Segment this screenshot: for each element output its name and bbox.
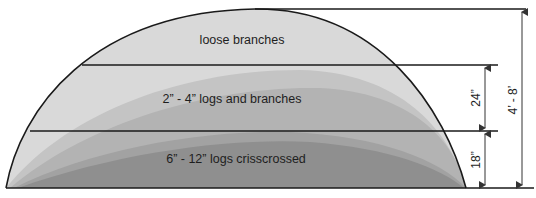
dimension-label-total: 4’ - 8’ <box>506 86 520 115</box>
label-logs-and-branches: 2” - 4” logs and branches <box>163 92 302 106</box>
label-loose-branches: loose branches <box>200 33 285 47</box>
label-crisscrossed-logs: 6” - 12” logs crisscrossed <box>166 152 306 166</box>
dimension-label-24: 24” <box>469 89 483 106</box>
brush-pile-diagram: loose branches 2” - 4” logs and branches… <box>0 0 536 198</box>
cross-section-svg: loose branches 2” - 4” logs and branches… <box>0 0 536 198</box>
dimension-label-18: 18” <box>469 151 483 168</box>
